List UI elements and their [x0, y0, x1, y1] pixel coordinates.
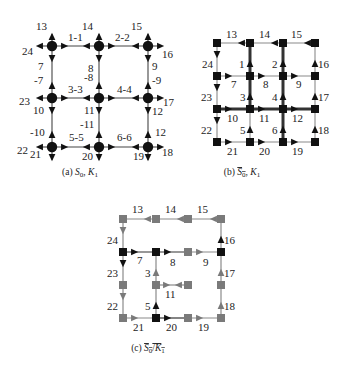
edge-label: 24 — [107, 234, 119, 246]
graph-node — [217, 281, 225, 289]
arrowhead-icon — [49, 131, 56, 138]
edge-label: 19 — [133, 150, 145, 162]
arrowhead-icon — [145, 154, 152, 161]
edge-label: 23 — [107, 267, 119, 279]
edge-label: 9 — [296, 78, 302, 90]
edge-label: 18 — [162, 146, 174, 158]
arrowhead-icon — [49, 33, 56, 40]
edge-label: 5-5 — [69, 131, 84, 143]
arrowhead-icon — [145, 33, 152, 40]
graph-node — [119, 281, 127, 289]
diagram-canvas: 1314151-12-22416789-7-8-93-34-4231710111… — [0, 0, 348, 368]
edge-label: 6-6 — [117, 131, 132, 143]
edge-label: 6 — [272, 124, 278, 136]
graph-node — [246, 72, 254, 80]
graph-node — [152, 248, 160, 256]
arrowhead-icon — [145, 55, 152, 62]
graph-node — [119, 215, 127, 223]
graph-node — [184, 281, 192, 289]
panel-caption: (b) S0, K1 — [224, 167, 261, 179]
graph-node — [279, 72, 287, 80]
edge-label: 5 — [145, 300, 151, 312]
graph-node — [213, 105, 221, 113]
arrowhead-icon — [49, 55, 56, 62]
graph-node — [47, 93, 57, 103]
edge-label: 9 — [203, 256, 209, 268]
edge-label: 4-4 — [117, 83, 132, 95]
edge-label: -7 — [34, 74, 44, 86]
arrowhead-icon — [83, 43, 90, 50]
arrowhead-icon — [153, 269, 160, 276]
edge-label: 24 — [22, 45, 34, 57]
edge-label: 14 — [165, 203, 177, 215]
graph-node — [119, 314, 127, 322]
edge-label: 16 — [318, 58, 330, 70]
edge-label: 10 — [227, 112, 239, 124]
edge-label: 10 — [33, 104, 45, 116]
arrowhead-icon — [175, 282, 182, 289]
arrowhead-icon — [61, 95, 68, 102]
edge-label: -11 — [80, 118, 94, 130]
edge-label: 15 — [291, 28, 303, 40]
graph-node — [94, 142, 104, 152]
edge-label: 20 — [82, 150, 94, 162]
edge-label: 9 — [152, 60, 158, 72]
arrowhead-icon — [96, 154, 103, 161]
graph-node — [184, 314, 192, 322]
edge-label: 21 — [227, 145, 238, 157]
edge-label: 3 — [145, 267, 151, 279]
graph-node — [152, 281, 160, 289]
edge-label: 20 — [259, 145, 271, 157]
arrowhead-icon — [145, 107, 152, 114]
graph-node — [143, 93, 153, 103]
arrowhead-icon — [214, 51, 221, 58]
arrowhead-icon — [49, 154, 56, 161]
graph-node — [311, 105, 319, 113]
edge-label: 14 — [259, 28, 271, 40]
edge-label: 17 — [224, 267, 236, 279]
arrowhead-icon — [96, 82, 103, 89]
edge-label: 11 — [259, 112, 270, 124]
edge-label: 5 — [240, 124, 246, 136]
edge-label: -9 — [152, 74, 162, 86]
edge-label: 22 — [107, 300, 118, 312]
edge-label: 22 — [201, 124, 212, 136]
graph-node — [311, 39, 319, 47]
graph-node — [213, 138, 221, 146]
graph-node — [213, 39, 221, 47]
edge-label: 21 — [133, 321, 144, 333]
edge-label: 14 — [82, 20, 94, 32]
edge-label: 16 — [224, 234, 236, 246]
arrowhead-icon — [214, 117, 221, 124]
edge-label: 17 — [163, 96, 175, 108]
panel-caption: (a) S0, K1 — [62, 167, 98, 179]
graph-node — [94, 93, 104, 103]
edge-label: 13 — [36, 20, 48, 32]
edge-label: 8 — [263, 78, 269, 90]
arrowhead-icon — [144, 216, 151, 223]
arrowhead-icon — [108, 43, 115, 50]
edge-label: 23 — [201, 91, 213, 103]
edge-label: 17 — [318, 91, 330, 103]
graph-node — [217, 248, 225, 256]
arrowhead-icon — [96, 55, 103, 62]
graph-node — [184, 215, 192, 223]
arrowhead-icon — [49, 82, 56, 89]
arrowhead-icon — [247, 60, 254, 67]
arrowhead-icon — [238, 40, 245, 47]
graph-node — [213, 72, 221, 80]
graph-node — [152, 215, 160, 223]
edge-label: 4 — [272, 91, 278, 103]
edge-label: 13 — [132, 203, 144, 215]
edge-label: -10 — [30, 126, 45, 138]
panel-b-graph: 131415241216789233417101112225618212019(… — [201, 28, 330, 179]
arrowhead-icon — [36, 43, 43, 50]
graph-node — [217, 314, 225, 322]
edge-label: 13 — [226, 28, 238, 40]
arrowhead-icon — [280, 60, 287, 67]
graph-node — [311, 138, 319, 146]
panel-caption: (c) S0/K1 — [131, 343, 165, 355]
edge-label: 18 — [318, 124, 330, 136]
arrowhead-icon — [304, 40, 311, 47]
arrowhead-icon — [247, 93, 254, 100]
